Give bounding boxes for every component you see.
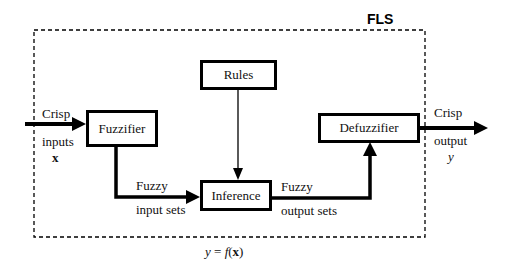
rules-label: Rules — [224, 67, 254, 83]
fuzzy-input-label: Fuzzy — [136, 179, 168, 193]
input-sets-label: input sets — [136, 203, 185, 217]
function-formula: y = f(x) — [205, 245, 243, 259]
defuzzifier-label: Defuzzifier — [339, 120, 398, 136]
inference-label: Inference — [211, 188, 260, 204]
defuzzifier-block: Defuzzifier — [318, 113, 420, 143]
crisp-output-label: Crisp — [434, 106, 462, 120]
rules-block: Rules — [200, 60, 277, 90]
input-variable-x: x — [52, 151, 59, 165]
fuzzifier-label: Fuzzifier — [99, 121, 146, 137]
inference-arrowhead-icon — [186, 190, 200, 204]
fuzzifier-block: Fuzzifier — [86, 110, 158, 147]
inference-block: Inference — [200, 180, 272, 211]
rules-arrowhead-icon — [233, 168, 243, 180]
crisp-input-label: Crisp — [42, 107, 70, 121]
formula-equals: = — [211, 244, 225, 259]
input-arrowhead-icon — [72, 117, 86, 131]
output-label: output — [434, 134, 467, 148]
fls-title: FLS — [367, 11, 393, 27]
inputs-label: inputs — [42, 135, 74, 149]
formula-close: ) — [239, 244, 243, 259]
output-sets-label: output sets — [281, 204, 337, 218]
output-arrowhead-icon — [474, 121, 488, 135]
defuzzifier-arrowhead-icon — [363, 142, 377, 156]
fuzzy-output-label: Fuzzy — [281, 180, 313, 194]
output-variable-y: y — [448, 150, 454, 164]
